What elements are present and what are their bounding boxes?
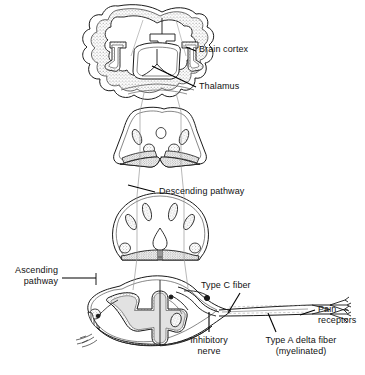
leader-descending-pathway <box>128 185 155 192</box>
leader-type-a-delta <box>268 313 276 332</box>
label-pain-receptors-line1: Pain <box>318 304 336 315</box>
brain-cortex-section <box>83 5 214 100</box>
label-brain-cortex: Brain cortex <box>199 44 248 55</box>
label-ascending-pathway-line1: Ascending <box>0 265 58 276</box>
label-type-a-delta-line2: (myelinated) <box>239 346 363 357</box>
label-pain-receptors-line2: receptors <box>318 315 356 326</box>
medulla-section <box>113 193 209 260</box>
label-inhibitory-nerve-line2: nerve <box>179 346 239 357</box>
label-ascending-pathway-line2: pathway <box>0 276 58 287</box>
label-inhibitory-nerve-line1: Inhibitory <box>179 335 239 346</box>
leader-type-c-fiber <box>228 293 240 313</box>
label-descending-pathway: Descending pathway <box>159 186 244 197</box>
label-type-c-fiber: Type C fiber <box>201 280 251 291</box>
label-thalamus: Thalamus <box>199 81 239 92</box>
label-type-a-delta-line1: Type A delta fiber <box>239 335 363 346</box>
midbrain-pons-section <box>114 107 207 167</box>
